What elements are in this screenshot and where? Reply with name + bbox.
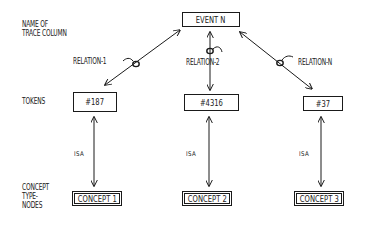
isa-label-2: ISA (186, 150, 196, 158)
concept-label: CONCEPT 1 (78, 194, 117, 204)
concept-node-1[interactable]: CONCEPT 1 (74, 193, 120, 204)
relation-1-link (105, 30, 180, 85)
relation-2-label: RELATION-2 (186, 58, 219, 67)
row-label-line: NAME OF (22, 20, 67, 29)
concept-node-2[interactable]: CONCEPT 2 (184, 193, 230, 204)
row-label-concept-type-nodes: CONCEPT TYPE- NODES (22, 183, 49, 210)
isa-label-1: ISA (74, 150, 84, 158)
token-label: #37 (316, 99, 330, 109)
token-node-4316[interactable]: #4316 (184, 94, 239, 111)
concept-label: CONCEPT 3 (300, 194, 339, 204)
concept-label: CONCEPT 2 (188, 194, 227, 204)
event-node[interactable]: EVENT N (182, 12, 240, 27)
concept-node-3[interactable]: CONCEPT 3 (296, 193, 342, 204)
row-label-line: CONCEPT (22, 183, 49, 192)
row-label-line: TYPE- (22, 192, 49, 201)
relation-2-node-icon (207, 47, 222, 54)
token-node-37[interactable]: #37 (303, 96, 343, 111)
relation-1-label: RELATION-1 (73, 57, 106, 66)
row-label-trace-column: NAME OF TRACE COLUMN (22, 20, 67, 38)
event-node-label: EVENT N (196, 15, 226, 25)
isa-label-3: ISA (299, 150, 309, 158)
token-node-187[interactable]: #187 (73, 92, 117, 112)
token-label: #4316 (200, 98, 223, 108)
row-label-tokens: TOKENS (22, 97, 45, 106)
relation-n-label: RELATION-N (298, 58, 332, 67)
row-label-line: TRACE COLUMN (22, 29, 67, 38)
row-label-line: NODES (22, 201, 49, 210)
token-label: #187 (86, 97, 105, 107)
relation-n-node-icon (277, 56, 293, 66)
